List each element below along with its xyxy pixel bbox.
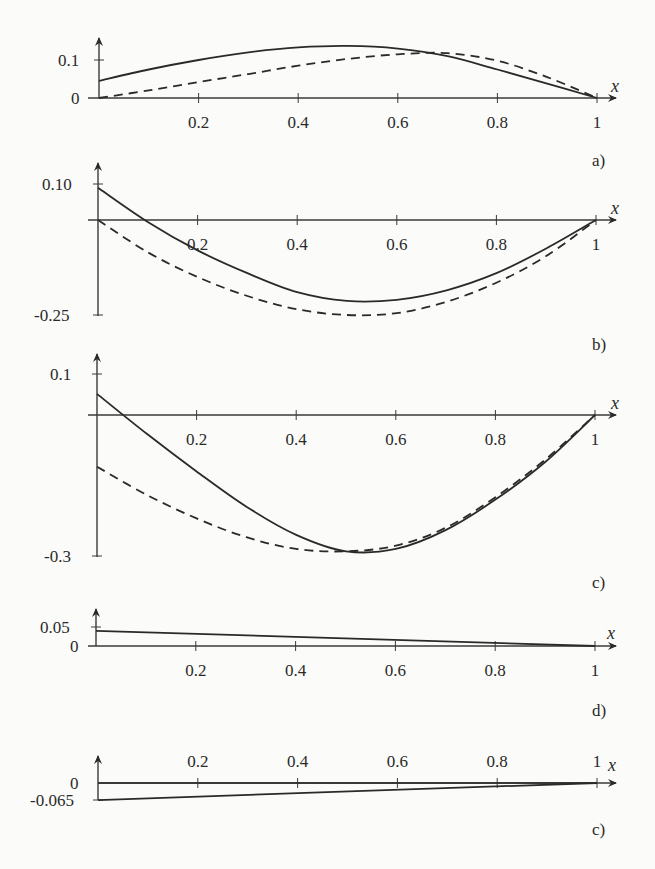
- x-tick-label: 0.2: [186, 430, 207, 449]
- panel-e: 0.20.40.60.81 0 -0.065 x c): [30, 752, 616, 839]
- panel-a: 0.20.40.60.81 0.1 0 x a): [58, 38, 619, 170]
- y-tick-bottom: -0.065: [30, 791, 74, 810]
- panel-label: d): [592, 701, 606, 720]
- x-axis-label: x: [610, 198, 619, 218]
- x-tick-label: 0.8: [485, 430, 506, 449]
- x-tick-label: 1: [591, 430, 600, 449]
- x-tick-label: 0.4: [287, 235, 309, 254]
- y-tick-top: 0.1: [58, 51, 79, 70]
- panel-b: 0.20.40.60.81 0.10 -0.25 x b): [34, 163, 619, 354]
- x-tick-label: 0.8: [486, 235, 507, 254]
- series-dashed: [99, 53, 597, 98]
- x-tick-label: 0.6: [385, 661, 406, 680]
- y-tick-bottom: -0.3: [44, 547, 71, 566]
- x-ticks: 0.20.40.60.81: [186, 410, 599, 449]
- x-tick-label: 0.8: [485, 661, 506, 680]
- x-tick-label: 1: [593, 752, 602, 771]
- panel-label: c): [592, 820, 605, 839]
- panel-label: a): [592, 151, 605, 170]
- y-tick-bottom: 0: [70, 637, 79, 656]
- x-axis-label: x: [610, 393, 619, 413]
- series-solid: [97, 394, 595, 553]
- x-axis-label: x: [607, 755, 616, 775]
- y-tick-top: 0.05: [40, 618, 70, 637]
- x-tick-label: 0.4: [288, 113, 310, 132]
- x-tick-label: 0.2: [187, 752, 208, 771]
- series-solid: [96, 631, 595, 646]
- x-ticks: 0.20.40.60.81: [185, 641, 599, 680]
- panel-label: c): [592, 573, 605, 592]
- x-tick-label: 1: [591, 661, 600, 680]
- x-tick-label: 0.4: [285, 661, 307, 680]
- x-tick-label: 0.8: [487, 752, 508, 771]
- x-tick-label: 1: [593, 113, 602, 132]
- panel-c: 0.20.40.60.81 0.1 -0.3 x c): [44, 354, 619, 592]
- x-ticks: 0.20.40.60.81: [187, 215, 600, 254]
- x-tick-label: 0.4: [286, 430, 308, 449]
- series-dashed: [97, 415, 595, 551]
- series-solid: [99, 46, 597, 98]
- series-solid: [98, 783, 597, 800]
- x-ticks: 0.20.40.60.81: [188, 93, 601, 132]
- x-tick-label: 0.4: [287, 752, 309, 771]
- x-tick-label: 0.6: [385, 430, 406, 449]
- x-tick-label: 1: [592, 235, 601, 254]
- x-axis-label: x: [610, 76, 619, 96]
- plot-canvas: 0.20.40.60.81 0.1 0 x a) 0.20.40.60.81 0…: [0, 0, 655, 869]
- panel-label: b): [592, 335, 606, 354]
- y-tick-top: 0.1: [50, 365, 71, 384]
- x-tick-label: 0.6: [387, 752, 408, 771]
- x-axis-label: x: [606, 623, 615, 643]
- x-tick-label: 0.2: [185, 661, 206, 680]
- x-tick-label: 0.8: [487, 113, 508, 132]
- x-tick-label: 0.6: [387, 113, 408, 132]
- x-tick-label: 0.6: [386, 235, 407, 254]
- y-tick-bottom: -0.25: [34, 306, 69, 325]
- panel-d: 0.20.40.60.81 0.05 0 x d): [40, 609, 616, 720]
- series-solid: [98, 188, 596, 302]
- figure: 0.20.40.60.81 0.1 0 x a) 0.20.40.60.81 0…: [0, 0, 655, 869]
- y-tick-top: 0.10: [42, 175, 72, 194]
- x-tick-label: 0.2: [188, 113, 209, 132]
- y-tick-bottom: 0: [71, 89, 80, 108]
